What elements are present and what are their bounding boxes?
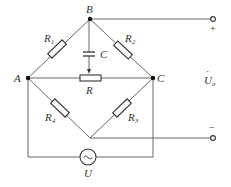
node-c: [151, 76, 155, 80]
resistor-r: [80, 75, 101, 81]
label-r: R: [85, 84, 93, 96]
output-voltage-dot: ·: [206, 66, 209, 77]
label-node-b: B: [86, 3, 93, 15]
label-minus: −: [209, 122, 215, 133]
label-u: U: [84, 167, 93, 179]
ac-source-u: [80, 149, 96, 165]
resistor-r4: [51, 99, 70, 117]
output-terminal-plus[interactable]: [211, 17, 216, 22]
label-c: C: [100, 48, 108, 60]
label-node-a: A: [13, 72, 21, 84]
label-r3: R3: [127, 111, 139, 125]
node-a: [26, 76, 30, 80]
node-b: [88, 17, 92, 21]
label-r2: R2: [124, 32, 136, 46]
label-plus: +: [210, 23, 216, 34]
output-terminal-minus[interactable]: [211, 136, 216, 141]
label-r1: R1: [43, 32, 54, 46]
bridge-circuit-diagram: B A C R1 R2 R4 R3 R C U Uo · + −: [0, 0, 231, 187]
label-node-c: C: [157, 72, 165, 84]
wires: [28, 19, 211, 157]
label-r4: R4: [44, 111, 56, 125]
slider-arrow-icon: [87, 69, 91, 74]
